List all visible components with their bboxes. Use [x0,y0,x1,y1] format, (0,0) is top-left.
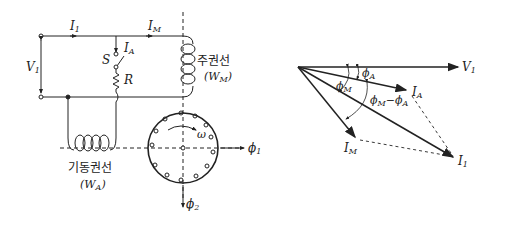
svg-text:IA: IA [123,41,135,56]
svg-text:V1: V1 [26,60,40,75]
svg-text:ϕ2: ϕ2 [186,197,199,212]
svg-text:V1: V1 [462,60,476,75]
svg-text:ω: ω [197,128,206,141]
svg-text:I1: I1 [69,19,80,34]
main-winding-label: 주권선 [197,54,230,68]
motor-diagram: I1 IM IA S R V1 ω ϕ1 ϕ2 주권선 (WM) 기동권선 (W… [0,0,505,225]
main-winding-coil [181,36,195,97]
svg-text:ϕM−ϕA: ϕM−ϕA [370,94,408,108]
terminal-bottom [39,95,43,99]
phasor-labels: V1 IA IM I1 ϕA ϕM ϕM−ϕA [336,60,476,169]
svg-text:R: R [123,73,133,87]
svg-text:IM: IM [147,19,162,34]
terminal-top [39,34,43,38]
circuit [39,12,244,207]
svg-text:S: S [102,53,110,67]
phasor-I1 [298,67,453,157]
svg-text:IM: IM [343,141,358,156]
svg-text:ϕA: ϕA [362,67,376,81]
svg-text:ϕM: ϕM [336,80,353,94]
circuit-labels: I1 IM IA S R V1 ω ϕ1 ϕ2 주권선 (WM) 기동권선 (W… [26,19,261,212]
phasor-diagram [298,67,458,157]
aux-winding-coil [75,135,109,151]
svg-text:ϕ1: ϕ1 [248,141,261,156]
aux-winding-label: 기동권선 [68,161,112,175]
svg-text:IA: IA [411,85,423,100]
main-winding-symbol: (WM) [204,70,232,84]
aux-winding-symbol: (WA) [80,178,106,192]
svg-text:I1: I1 [457,154,468,169]
